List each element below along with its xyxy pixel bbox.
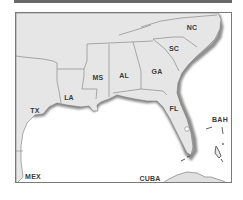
bahamas-islands bbox=[206, 127, 224, 162]
label-al: AL bbox=[119, 72, 129, 79]
label-la: LA bbox=[64, 94, 74, 101]
label-ga: GA bbox=[152, 68, 163, 75]
label-fl: FL bbox=[170, 105, 179, 112]
label-bah: BAH bbox=[212, 116, 228, 123]
label-ms: MS bbox=[93, 74, 104, 81]
florida-keys bbox=[181, 156, 190, 161]
map-svg bbox=[16, 13, 232, 183]
lake-okeechobee bbox=[185, 127, 190, 132]
label-sc: SC bbox=[169, 45, 179, 52]
map-frame bbox=[15, 12, 232, 183]
label-tx: TX bbox=[30, 107, 39, 114]
label-cuba: CUBA bbox=[139, 175, 160, 182]
label-mex: MEX bbox=[25, 173, 41, 180]
label-nc: NC bbox=[187, 24, 198, 31]
top-bar bbox=[14, 0, 232, 3]
cuba-island bbox=[161, 172, 229, 183]
